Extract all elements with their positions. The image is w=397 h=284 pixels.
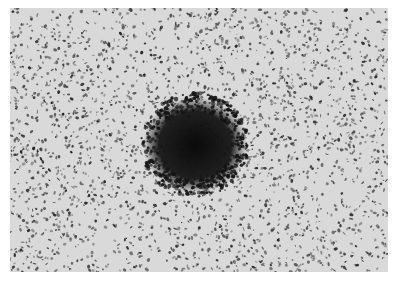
- micrograph-canvas: [10, 8, 388, 272]
- micrograph-image: [10, 8, 388, 272]
